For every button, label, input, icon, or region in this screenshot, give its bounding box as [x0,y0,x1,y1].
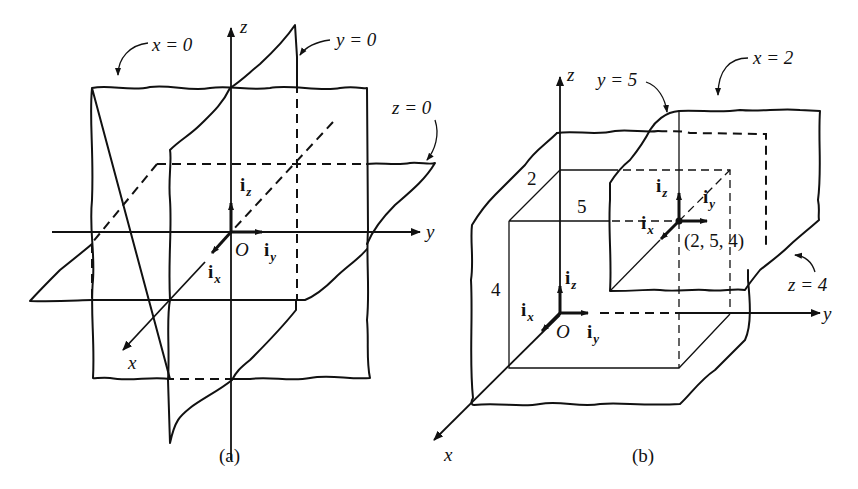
x-axis-b [434,315,560,440]
label-x0-plane: x = 0 [152,35,192,54]
label-z-axis-a: z [240,17,247,36]
label-x2-plane: x = 2 [753,48,793,67]
label-iy-point: iy [703,187,715,206]
label-dim-y: 5 [577,197,587,216]
label-ix-origin: ix [521,300,534,319]
caption-b: (b) [632,446,654,465]
label-origin-a: O [235,240,249,259]
figure-b [434,58,820,440]
label-z-axis-b: z [567,65,574,84]
leader-x0 [118,43,148,75]
label-iy-a: iy [264,240,276,259]
label-x-axis-b: x [444,445,452,464]
x-axis-a [123,262,205,350]
box-edges [509,170,730,368]
label-z0-plane: z = 0 [392,98,431,117]
ix-vector-point [661,221,679,239]
leader-z4 [795,255,815,272]
label-origin-b: O [556,322,570,341]
leader-y5 [646,82,667,112]
ix-vector-a [212,232,231,253]
label-y5-plane: y = 5 [597,70,637,89]
label-y0-plane: y = 0 [336,30,376,49]
label-iz-origin: iz [565,268,576,287]
label-x-axis-a: x [128,353,136,372]
label-iz-a: iz [240,175,251,194]
label-point: (2, 5, 4) [684,231,744,250]
label-z4-plane: z = 4 [788,275,827,294]
label-iy-origin: iy [587,322,599,341]
leader-y0 [300,40,330,55]
leader-x2 [718,58,748,95]
label-ix-a: ix [208,262,221,281]
caption-a: (a) [219,446,240,465]
label-dim-z: 4 [491,280,501,299]
label-y-axis-b: y [823,304,831,323]
leader-z0 [427,120,437,160]
label-y-axis-a: y [426,222,434,241]
label-dim-x: 2 [527,169,537,188]
figure-a [30,25,437,460]
label-iz-point: iz [656,176,667,195]
label-ix-point: ix [641,213,654,232]
